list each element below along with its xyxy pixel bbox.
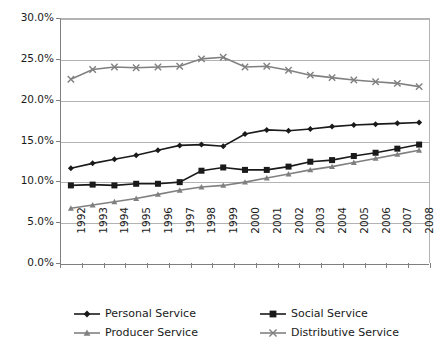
- data-point-diamond: [90, 160, 96, 166]
- x-axis-label: 2000: [250, 207, 261, 271]
- x-axis-label: 2001: [272, 207, 283, 271]
- data-point-diamond: [84, 311, 91, 318]
- x-axis-label: 1999: [228, 207, 239, 271]
- x-axis-label: 1998: [206, 207, 217, 271]
- data-point-square: [394, 146, 400, 152]
- x-axis-label: 2002: [294, 207, 305, 271]
- legend-item-producer-service[interactable]: Producer Service: [72, 327, 198, 339]
- x-axis-tick: [60, 263, 61, 268]
- data-point-diamond: [177, 142, 183, 148]
- data-point-diamond: [329, 124, 335, 130]
- chart-legend: Personal ServiceSocial ServiceProducer S…: [0, 306, 436, 348]
- data-point-diamond: [198, 142, 204, 148]
- data-point-diamond: [155, 147, 161, 153]
- data-point-square: [68, 182, 74, 188]
- data-point-diamond: [307, 126, 313, 132]
- line-chart: 0.0%5.0%10.0%15.0%20.0%25.0%30.0% 199219…: [0, 0, 436, 348]
- data-point-square: [242, 167, 248, 173]
- data-point-square: [133, 181, 139, 187]
- legend-item-personal-service[interactable]: Personal Service: [72, 308, 196, 320]
- data-point-square: [177, 179, 183, 185]
- data-point-square: [220, 164, 226, 170]
- legend-label: Personal Service: [105, 308, 196, 320]
- legend-marker-diamond-icon: [72, 308, 102, 320]
- series-distributive-service: [68, 54, 423, 90]
- data-point-diamond: [111, 156, 117, 162]
- legend-item-distributive-service[interactable]: Distributive Service: [258, 327, 399, 339]
- data-point-diamond: [394, 120, 400, 126]
- series-layer: [0, 0, 436, 348]
- x-axis-label: 2008: [424, 207, 435, 271]
- data-point-square: [90, 182, 96, 188]
- data-point-square: [351, 153, 357, 159]
- data-point-diamond: [133, 152, 139, 158]
- data-point-cross: [68, 76, 74, 82]
- data-point-diamond: [68, 165, 74, 171]
- x-axis-label: 2004: [337, 207, 348, 271]
- series-producer-service: [68, 147, 422, 210]
- series-line: [71, 57, 419, 86]
- data-point-diamond: [286, 128, 292, 134]
- legend-label: Distributive Service: [291, 327, 399, 339]
- x-axis-label: 1997: [185, 207, 196, 271]
- legend-marker-triangle-icon: [72, 327, 102, 339]
- data-point-diamond: [264, 127, 270, 133]
- x-axis-label: 1996: [163, 207, 174, 271]
- data-point-square: [198, 168, 204, 174]
- x-axis-label: 2003: [315, 207, 326, 271]
- data-point-square: [155, 181, 161, 187]
- data-point-diamond: [373, 121, 379, 127]
- x-axis-label: 2007: [402, 207, 413, 271]
- data-point-square: [286, 164, 292, 170]
- legend-marker-square-icon: [258, 308, 288, 320]
- data-point-diamond: [242, 131, 248, 137]
- data-point-diamond: [220, 143, 226, 149]
- data-point-square: [264, 167, 270, 173]
- series-personal-service: [68, 120, 422, 172]
- x-axis-label: 1992: [76, 207, 87, 271]
- x-axis-label: 2006: [381, 207, 392, 271]
- data-point-square: [111, 182, 117, 188]
- x-axis-label: 1995: [141, 207, 152, 271]
- data-point-square: [307, 159, 313, 165]
- x-axis-label: 2005: [359, 207, 370, 271]
- data-point-square: [329, 157, 335, 163]
- x-axis-label: 1993: [98, 207, 109, 271]
- legend-label: Producer Service: [105, 327, 198, 339]
- x-axis-label: 1994: [119, 207, 130, 271]
- data-point-diamond: [351, 122, 357, 128]
- data-point-square: [416, 142, 422, 148]
- series-line: [71, 123, 419, 169]
- data-point-diamond: [416, 120, 422, 126]
- legend-marker-cross-icon: [258, 327, 288, 339]
- data-point-square: [270, 311, 277, 318]
- data-point-square: [373, 150, 379, 156]
- legend-label: Social Service: [291, 308, 368, 320]
- legend-item-social-service[interactable]: Social Service: [258, 308, 368, 320]
